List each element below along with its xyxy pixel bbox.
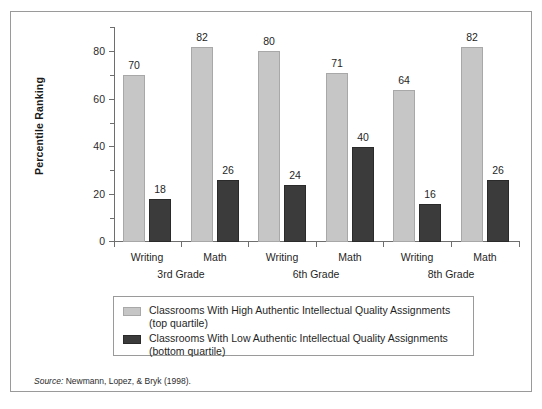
bar-dark-6th-math: [352, 147, 374, 242]
bar-value-dark-6th-math: 40: [343, 132, 383, 143]
bar-value-dark-6th-writing: 24: [275, 170, 315, 181]
bar-value-light-6th-math: 71: [317, 58, 357, 69]
y-axis-label-0: 0: [75, 236, 105, 247]
bar-light-8th-math: [461, 47, 483, 242]
y-axis-label-80: 80: [75, 46, 105, 57]
x-tick-5: [451, 242, 452, 247]
y-tick-90-minor: [110, 27, 114, 28]
y-tick-50-minor: [110, 123, 114, 124]
y-tick-30-minor: [110, 170, 114, 171]
legend-swatch-dark-icon: [123, 335, 141, 344]
y-tick-80: [109, 51, 114, 52]
x-group-label-6th-grade: 6th Grade: [256, 268, 376, 280]
bar-value-light-3rd-writing: 70: [114, 60, 154, 71]
bar-value-light-8th-math: 82: [452, 32, 492, 43]
bar-value-dark-3rd-math: 26: [208, 165, 248, 176]
x-axis-line: [114, 241, 520, 242]
legend-label-low-quality-line2: (bottom quartile): [149, 345, 225, 357]
bar-light-6th-math: [326, 73, 348, 242]
x-tick-0: [114, 242, 115, 247]
bar-dark-8th-writing: [419, 204, 441, 242]
y-tick-10-minor: [110, 218, 114, 219]
figure-frame: Percentile Ranking 80 60 40 20 0 70: [10, 11, 532, 392]
bar-light-8th-writing: [393, 90, 415, 242]
bar-value-dark-8th-writing: 16: [410, 189, 450, 200]
x-tick-1: [181, 242, 182, 247]
bar-dark-3rd-math: [217, 180, 239, 242]
legend-label-high-quality-line2: (top quartile): [149, 317, 208, 329]
x-tick-2: [248, 242, 249, 247]
legend-label-high-quality-line1: Classrooms With High Authentic Intellect…: [149, 304, 450, 316]
bar-dark-3rd-writing: [149, 199, 171, 242]
legend-item-low-quality: Classrooms With Low Authentic Intellectu…: [123, 332, 448, 358]
bar-light-3rd-math: [191, 47, 213, 242]
x-tick-3: [316, 242, 317, 247]
y-tick-20: [109, 194, 114, 195]
legend-label-high-quality: Classrooms With High Authentic Intellect…: [149, 304, 450, 330]
bar-dark-8th-math: [487, 180, 509, 242]
y-axis-label-20: 20: [75, 189, 105, 200]
y-tick-60: [109, 99, 114, 100]
legend-swatch-light-icon: [123, 307, 141, 316]
legend-label-low-quality: Classrooms With Low Authentic Intellectu…: [149, 332, 448, 358]
bar-value-light-8th-writing: 64: [384, 75, 424, 86]
y-axis-label-60: 60: [75, 94, 105, 105]
bar-light-3rd-writing: [123, 75, 145, 242]
bar-value-dark-3rd-writing: 18: [140, 184, 180, 195]
legend-item-high-quality: Classrooms With High Authentic Intellect…: [123, 304, 450, 330]
source-text: Newmann, Lopez, & Bryk (1998).: [63, 376, 191, 386]
legend-label-low-quality-line1: Classrooms With Low Authentic Intellectu…: [149, 332, 448, 344]
source-note: Source: Newmann, Lopez, & Bryk (1998).: [34, 376, 191, 386]
x-label-8th-math: Math: [445, 251, 525, 263]
bar-light-6th-writing: [258, 51, 280, 242]
bar-value-light-6th-writing: 80: [249, 36, 289, 47]
y-axis-label-40: 40: [75, 141, 105, 152]
x-group-label-8th-grade: 8th Grade: [391, 268, 511, 280]
bar-value-light-3rd-math: 82: [182, 32, 222, 43]
x-group-label-3rd-grade: 3rd Grade: [121, 268, 241, 280]
chart-legend: Classrooms With High Authentic Intellect…: [113, 296, 474, 356]
source-label: Source:: [34, 376, 63, 386]
y-tick-70-minor: [110, 75, 114, 76]
x-tick-6: [519, 242, 520, 247]
bar-dark-6th-writing: [284, 185, 306, 242]
bar-value-dark-8th-math: 26: [478, 165, 518, 176]
y-tick-40: [109, 146, 114, 147]
y-axis-title: Percentile Ranking: [33, 56, 45, 196]
x-tick-4: [383, 242, 384, 247]
